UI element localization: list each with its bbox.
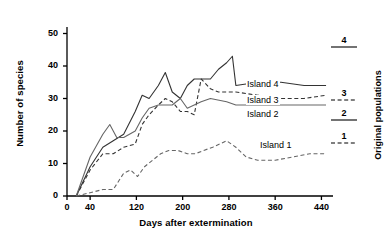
x-tick-label: 200 [170, 202, 196, 212]
y-tick-label: 50 [34, 28, 58, 38]
legend-number-2: 2 [337, 108, 351, 118]
chart-series-group [76, 56, 326, 196]
x-axis-title: Days after extermination [96, 217, 296, 228]
chart-figure: Number of species Days after exterminati… [0, 0, 389, 242]
series-label-island-2: Island 2 [246, 109, 280, 119]
x-tick-label: 40 [77, 202, 103, 212]
chart-axes [63, 27, 333, 200]
series-label-island-4: Island 4 [246, 79, 280, 89]
y-tick-label: 30 [34, 93, 58, 103]
legend-number-4: 4 [337, 35, 351, 45]
series-label-island-1: Island 1 [259, 140, 293, 150]
y-tick-label: 10 [34, 158, 58, 168]
y-tick-label: 40 [34, 60, 58, 70]
series-label-island-3: Island 3 [246, 95, 280, 105]
x-tick-label: 440 [308, 202, 334, 212]
right-axis-title: Original populations [373, 50, 383, 180]
x-tick-label: 360 [262, 202, 288, 212]
series-line-island-4 [76, 56, 326, 196]
x-tick-label: 280 [216, 202, 242, 212]
y-tick-label: 20 [34, 125, 58, 135]
x-tick-label: 120 [123, 202, 149, 212]
x-tick-label: 0 [54, 202, 80, 212]
legend-number-3: 3 [337, 88, 351, 98]
y-tick-label: 0 [34, 190, 58, 200]
y-axis-title: Number of species [14, 44, 25, 164]
series-line-island-3 [76, 79, 326, 196]
legend-number-1: 1 [337, 131, 351, 141]
